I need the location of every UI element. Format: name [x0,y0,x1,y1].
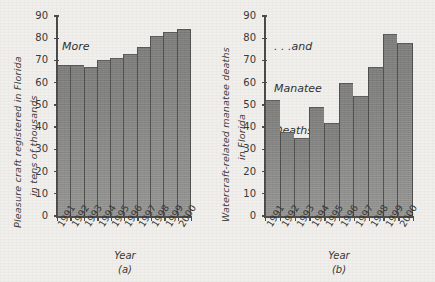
bar-2000[interactable] [397,43,413,216]
y-tick-label-30: 30 [240,143,256,154]
y-tick-label-70: 70 [32,54,48,65]
bar-1991[interactable] [57,65,70,216]
bar-1991[interactable] [265,100,280,216]
y-tick-label-0: 0 [32,210,48,221]
y-tick-label-10: 10 [240,188,256,199]
y-tick-label-50: 50 [32,99,48,110]
y-tick-label-90: 90 [240,10,256,21]
y-tick-label-60: 60 [32,77,48,88]
y-tick-label-90: 90 [32,10,48,21]
y-tick-label-70: 70 [240,54,256,65]
bar-1999[interactable] [163,32,176,216]
bar-2000[interactable] [177,29,191,216]
bar-group-a [57,16,191,216]
bar-1997[interactable] [353,96,368,216]
x-axis-title-a: Year [90,250,160,261]
y-tick-label-20: 20 [240,166,256,177]
bar-1998[interactable] [368,67,383,216]
figure-canvas: Pleasure craft registered in Florida in … [0,0,435,282]
y-tick-label-10: 10 [32,188,48,199]
y-axis-label-b: Watercraft-related manatee deaths [220,47,231,222]
panel-caption-a: (a) [90,264,160,275]
y-axis-label-b-line1: Watercraft-related manatee deaths [220,47,231,222]
bar-1995[interactable] [110,58,123,216]
chart-panel-b: Watercraft-related manatee deaths in Flo… [212,0,435,282]
y-tick-label-0: 0 [240,210,256,221]
bar-1996[interactable] [123,54,136,216]
bar-1998[interactable] [150,36,163,216]
y-tick-label-80: 80 [32,32,48,43]
bar-1994[interactable] [309,107,324,216]
bar-1994[interactable] [97,60,110,216]
y-tick-label-80: 80 [240,32,256,43]
y-tick-label-50: 50 [240,99,256,110]
bar-1997[interactable] [137,47,150,216]
y-tick-label-40: 40 [32,121,48,132]
y-tick-label-60: 60 [240,77,256,88]
bar-1996[interactable] [339,83,354,216]
bar-group-b [265,16,413,216]
y-tick-label-30: 30 [32,143,48,154]
y-axis-label-a-line1: Pleasure craft registered in Florida [12,56,23,228]
y-axis-label-a: Pleasure craft registered in Florida [12,56,23,228]
bar-1999[interactable] [383,34,398,216]
bar-1992[interactable] [70,65,83,216]
chart-panel-a: Pleasure craft registered in Florida in … [0,0,212,282]
y-tick-label-40: 40 [240,121,256,132]
panel-caption-b: (b) [304,264,374,275]
x-axis-title-b: Year [304,250,374,261]
y-tick-label-20: 20 [32,166,48,177]
bar-1993[interactable] [84,67,97,216]
